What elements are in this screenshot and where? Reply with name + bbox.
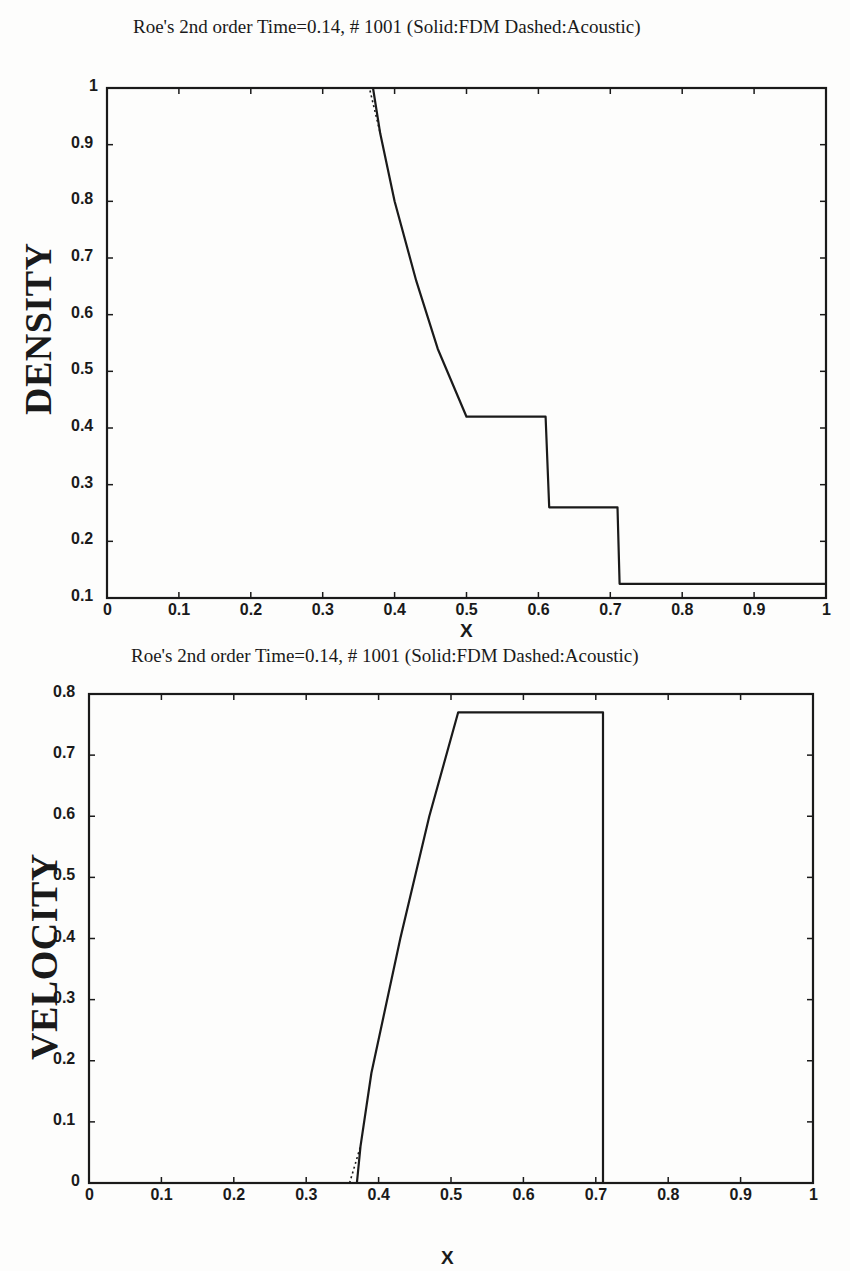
axes-frame — [89, 694, 813, 1183]
x-tick-label: 1 — [809, 1186, 818, 1204]
x-tick-label: 0.8 — [657, 1186, 679, 1204]
x-tick-label: 0.5 — [440, 1186, 462, 1204]
y-tick-label: 0.3 — [53, 989, 75, 1007]
y-tick-label: 0.8 — [53, 683, 75, 701]
x-tick-label: 0 — [85, 1186, 94, 1204]
velocity-chart: Roe's 2nd order Time=0.14, # 1001 (Solid… — [0, 0, 850, 1271]
x-tick-label: 0.4 — [368, 1186, 390, 1204]
series-fdm-line — [89, 712, 813, 1183]
y-tick-label: 0.5 — [53, 866, 75, 884]
y-tick-label: 0.7 — [53, 744, 75, 762]
x-tick-label: 0.7 — [585, 1186, 607, 1204]
x-tick-label: 0.9 — [730, 1186, 752, 1204]
x-tick-label: 0.6 — [512, 1186, 534, 1204]
y-tick-label: 0 — [71, 1172, 80, 1190]
x-tick-label: 0.1 — [150, 1186, 172, 1204]
y-tick-label: 0.2 — [53, 1050, 75, 1068]
y-tick-label: 0.4 — [53, 928, 75, 946]
y-tick-label: 0.1 — [53, 1111, 75, 1129]
x-tick-label: 0.2 — [223, 1186, 245, 1204]
velocity-plot-area — [0, 0, 850, 1271]
x-tick-label: 0.3 — [295, 1186, 317, 1204]
y-tick-label: 0.6 — [53, 805, 75, 823]
